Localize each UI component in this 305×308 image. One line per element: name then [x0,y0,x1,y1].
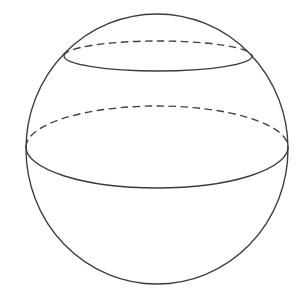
sphere-diagram-canvas [0,0,305,308]
sphere-fill [26,14,288,284]
sphere-diagram-svg [0,0,305,308]
